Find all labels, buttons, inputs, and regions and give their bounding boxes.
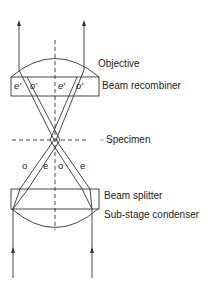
arrow-up-icon bbox=[11, 247, 15, 253]
ray-label: e bbox=[80, 161, 85, 171]
ray-label: o bbox=[58, 161, 63, 171]
arrow-up-icon bbox=[82, 20, 86, 26]
beam-splitter bbox=[11, 189, 99, 209]
ray-label: o' bbox=[76, 81, 83, 91]
ray-label: o bbox=[22, 161, 27, 171]
ray-label: e' bbox=[58, 81, 65, 91]
label-beam-recombiner: Beam recombiner bbox=[102, 81, 181, 91]
label-condenser: Sub-stage condenser bbox=[104, 210, 199, 220]
label-objective: Objective bbox=[98, 59, 140, 69]
dic-optical-diagram bbox=[0, 0, 210, 282]
label-specimen: Specimen bbox=[106, 135, 150, 145]
label-beam-splitter: Beam splitter bbox=[104, 191, 162, 201]
arrow-up-icon bbox=[90, 247, 94, 253]
ray-label: e bbox=[43, 161, 48, 171]
arrow-up-icon bbox=[17, 20, 21, 26]
ray-label: e' bbox=[14, 81, 21, 91]
ray-label: o' bbox=[30, 81, 37, 91]
